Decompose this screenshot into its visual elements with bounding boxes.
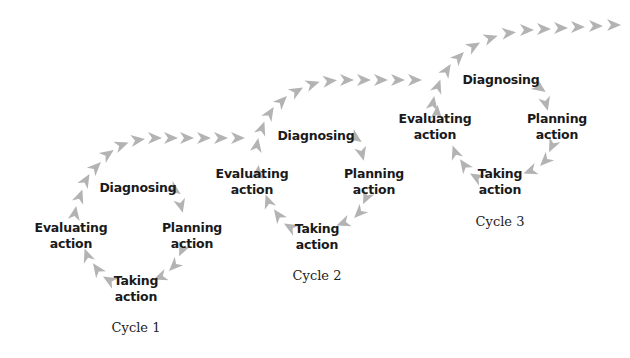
arrowhead-icon [571,21,585,33]
arrowhead-icon [501,26,516,39]
arrowhead-icon [77,171,94,189]
arrowhead-icon [357,74,371,86]
arrowhead-icons [68,19,621,289]
arrowhead-icon [450,48,468,66]
arrowhead-icon [130,133,146,147]
arrowhead-icon [88,260,106,278]
arrowhead-icon [197,132,211,144]
cycle1-evaluating-label: Evaluating action [35,220,108,252]
step-text: action [114,289,159,305]
step-text: Taking [478,166,523,182]
cycle1-taking-label: Taking action [114,273,159,305]
step-text: action [295,237,340,253]
cycle2-planning-label: Planning action [344,166,404,198]
step-text: action [478,182,523,198]
arrowhead-icon [536,152,554,170]
arrowhead-icon [521,163,538,179]
arrowhead-icon [538,96,553,113]
arrowhead-icon [165,257,183,275]
cycle3-planning-label: Planning action [527,111,587,143]
step-text: Diagnosing [99,180,176,195]
arrowhead-icon [589,20,603,32]
step-text: Planning [527,111,587,127]
arrowhead-icon [214,132,228,144]
cycle3-diagnosing-label: Diagnosing [462,72,539,88]
arrowhead-icon [465,37,483,54]
spiral-arrow-path [0,0,630,358]
action-research-spiral-diagram: Diagnosing Planning action Taking action… [0,0,630,358]
arrowhead-icon [113,137,130,153]
step-text: Evaluating [399,111,472,127]
arrowhead-icon [482,30,499,46]
cycle2-caption: Cycle 2 [293,268,342,283]
arrowhead-icon [520,24,534,36]
step-text: Taking [295,221,340,237]
arrowhead-icon [250,137,264,153]
step-text: action [162,236,222,252]
step-text: Taking [114,273,159,289]
arrowhead-icon [391,74,405,86]
arrowhead-icon [408,74,422,86]
cycle3-caption: Cycle 3 [476,214,525,229]
arrowhead-icon [374,74,388,86]
arrowhead-icon [304,76,321,92]
cycle1-caption: Cycle 1 [112,320,161,335]
arrowhead-icon [340,74,354,86]
arrowhead-icon [554,22,568,34]
arrowhead-icon [537,23,551,35]
cycle2-evaluating-label: Evaluating action [216,166,289,198]
arrowhead-icon [273,92,291,110]
arrowhead-icon [322,74,337,87]
step-text: action [216,182,289,198]
arrowhead-icon [173,198,188,215]
step-text: Planning [162,220,222,236]
arrowhead-icon [455,156,473,174]
arrowhead-icon [148,132,162,144]
arrowhead-icon [447,143,463,160]
step-text: action [344,182,404,198]
step-text: Diagnosing [277,128,354,143]
cycle3-evaluating-label: Evaluating action [399,111,472,143]
cycle3-taking-label: Taking action [478,166,523,198]
cycle2-taking-label: Taking action [295,221,340,253]
step-text: action [399,127,472,143]
arrowhead-icon [430,77,446,94]
arrowhead-icon [87,158,105,176]
arrowhead-icon [438,61,456,79]
arrowhead-icon [269,206,287,224]
arrowhead-icon [607,19,621,31]
step-text: Diagnosing [462,72,539,87]
arrowhead-icon [72,187,88,204]
step-text: Evaluating [216,166,289,182]
step-text: action [527,127,587,143]
arrowhead-icon [164,132,178,144]
step-text: action [35,236,108,252]
arrowhead-icon [254,119,270,136]
arrowhead-icon [350,204,368,222]
arrowhead-icon [261,104,279,122]
arrowhead-icon [68,205,82,221]
arrowhead-icon [354,146,369,163]
cycle1-diagnosing-label: Diagnosing [99,180,176,196]
step-text: Planning [344,166,404,182]
arrowhead-icon [231,132,245,144]
step-text: Evaluating [35,220,108,236]
cycle2-diagnosing-label: Diagnosing [277,128,354,144]
arrowhead-icon [180,132,194,144]
cycle1-planning-label: Planning action [162,220,222,252]
arrowhead-icon [99,145,117,163]
arrowhead-icon [288,82,306,99]
